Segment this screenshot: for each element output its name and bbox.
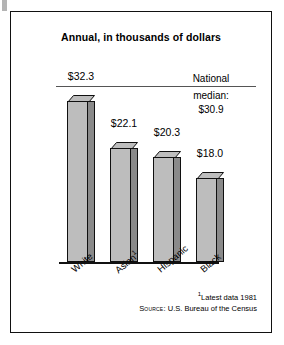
bar-side-face-asian <box>131 148 138 262</box>
bar-asian[interactable] <box>110 142 138 262</box>
bar-group-asian: $22.1 Asian1 <box>110 12 138 262</box>
chart-footnote: 1Latest data 1981 <box>198 291 257 302</box>
bar-black[interactable] <box>196 172 224 262</box>
plot-area: National median: $30.9 $32.3 White $2 <box>11 12 273 334</box>
bar-value-white: $32.3 <box>59 70 103 82</box>
bar-front-face-hispanic <box>153 157 174 262</box>
bar-white[interactable] <box>67 95 95 262</box>
corner-mark <box>2 0 7 11</box>
chart-baseline <box>59 262 219 264</box>
bar-front-face-asian <box>110 148 131 262</box>
bar-value-black: $18.0 <box>188 147 232 159</box>
bar-group-black: $18.0 Black <box>196 12 224 262</box>
bar-side-face-white <box>88 101 95 262</box>
footnote-text: Latest data 1981 <box>201 293 257 302</box>
bar-front-face-black <box>196 178 217 262</box>
chart-source: Source: U.S. Bureau of the Census <box>139 304 257 313</box>
bar-group-hispanic: $20.3 Hispanic <box>153 12 181 262</box>
bar-group-white: $32.3 White <box>67 12 95 262</box>
bar-front-face-white <box>67 101 88 262</box>
source-text: U.S. Bureau of the Census <box>168 304 257 313</box>
bar-value-hispanic: $20.3 <box>145 126 189 138</box>
bar-hispanic[interactable] <box>153 151 181 262</box>
source-label: Source: <box>139 304 166 313</box>
bar-value-asian: $22.1 <box>102 117 146 129</box>
chart-figure: Annual, in thousands of dollars National… <box>10 11 272 333</box>
bar-side-face-black <box>217 178 224 262</box>
